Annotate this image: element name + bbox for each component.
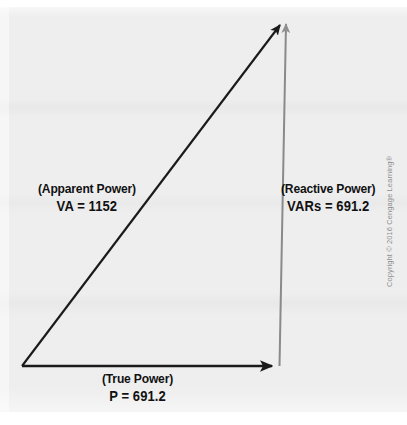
reactive-power-label: (Reactive Power) VARs = 691.2 bbox=[281, 181, 375, 214]
copyright-notice: Copyright © 2016 Cengage Learning® bbox=[385, 157, 394, 287]
apparent-power-value: VA = 1152 bbox=[38, 198, 136, 214]
true-power-name: (True Power) bbox=[102, 371, 173, 386]
reactive-power-name: (Reactive Power) bbox=[281, 181, 375, 196]
apparent-power-name: (Apparent Power) bbox=[38, 181, 136, 196]
true-power-value: P = 691.2 bbox=[102, 388, 173, 404]
power-triangle-figure: (Apparent Power) VA = 1152 (Reactive Pow… bbox=[0, 0, 407, 425]
true-power-label: (True Power) P = 691.2 bbox=[102, 371, 173, 404]
reactive-power-value: VARs = 691.2 bbox=[281, 198, 375, 214]
apparent-power-label: (Apparent Power) VA = 1152 bbox=[38, 181, 136, 214]
